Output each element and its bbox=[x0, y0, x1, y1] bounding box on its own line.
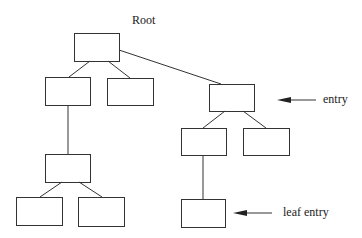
node-l2 bbox=[46, 155, 91, 183]
edge-r1-r2left bbox=[203, 111, 225, 128]
node-entry bbox=[210, 85, 255, 112]
leaf-entry-arrowhead-icon bbox=[233, 210, 247, 216]
node-r2-left bbox=[182, 129, 227, 156]
node-l1-mid bbox=[108, 79, 154, 106]
tree-diagram bbox=[0, 0, 362, 238]
entry-label: entry bbox=[323, 93, 348, 105]
node-l1-left bbox=[46, 78, 91, 106]
root-label: Root bbox=[132, 14, 155, 26]
node-l3-left bbox=[17, 198, 63, 226]
edge-l2-l3right bbox=[79, 182, 102, 197]
edge-root-l1mid bbox=[108, 61, 130, 78]
node-l3-right bbox=[79, 198, 125, 227]
leaf-entry-label: leaf entry bbox=[283, 206, 329, 218]
entry-arrowhead-icon bbox=[277, 97, 291, 103]
node-r2-right bbox=[244, 129, 290, 156]
edge-l2-l3left bbox=[40, 182, 62, 197]
edge-r1-r2right bbox=[243, 111, 266, 128]
node-leaf-entry bbox=[182, 200, 226, 228]
edge-root-l1left bbox=[69, 61, 90, 77]
node-root bbox=[75, 34, 120, 62]
